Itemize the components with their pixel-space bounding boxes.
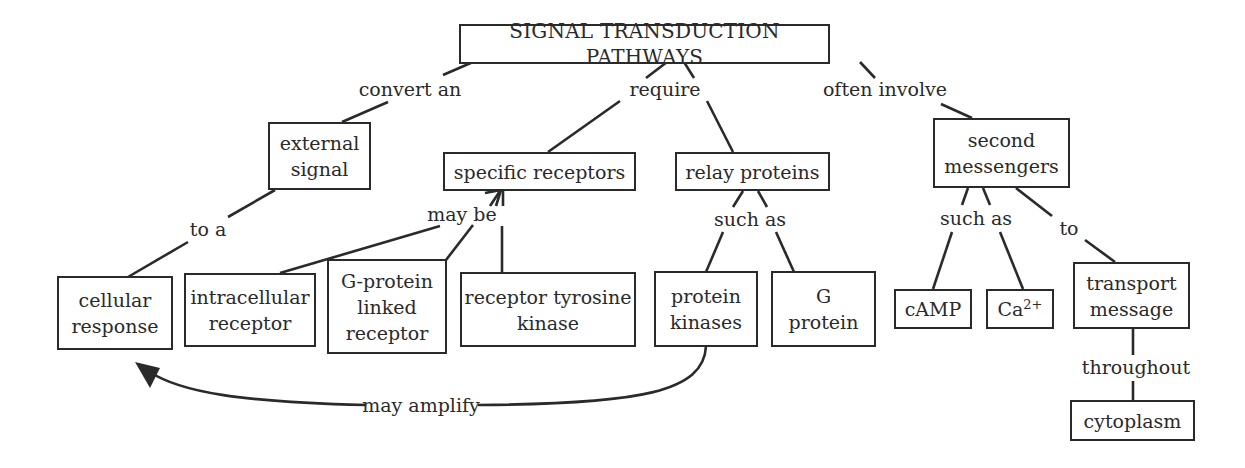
link-label-may-be: may be [427, 203, 497, 225]
node-protein-kinases: protein kinases [654, 271, 758, 347]
node-g-protein-linked-receptor: G-protein linked receptor [327, 259, 447, 354]
node-label: cytoplasm [1084, 408, 1182, 434]
link-label-to-a: to a [190, 218, 226, 240]
link-label-require: require [629, 78, 700, 100]
link-label-often-involve: often involve [823, 78, 947, 100]
node-label: receptor tyrosine kinase [465, 284, 632, 336]
concept-map: SIGNAL TRANSDUCTION PATHWAYS external si… [0, 0, 1245, 468]
node-calcium-ion: Ca2+ [986, 289, 1054, 329]
calcium-symbol: Ca [997, 298, 1023, 320]
node-label: G-protein linked receptor [341, 268, 433, 346]
link-label-such-as-relay: such as [714, 208, 786, 230]
calcium-charge: 2+ [1023, 297, 1042, 312]
node-label: Ca2+ [997, 296, 1042, 322]
node-label: G protein [789, 283, 859, 335]
link-label-may-amplify: may amplify [362, 394, 480, 416]
node-label: transport message [1086, 270, 1176, 322]
node-camp: cAMP [894, 289, 972, 329]
node-signal-transduction-pathways: SIGNAL TRANSDUCTION PATHWAYS [459, 24, 830, 64]
node-intracellular-receptor: intracellular receptor [184, 273, 316, 347]
connector-lines [0, 0, 1245, 468]
node-g-protein: G protein [771, 271, 876, 347]
node-label: cellular response [72, 287, 159, 339]
node-specific-receptors: specific receptors [443, 152, 636, 191]
node-label: cAMP [905, 296, 962, 322]
node-label: external signal [280, 130, 360, 182]
node-label: specific receptors [454, 159, 626, 185]
node-cellular-response: cellular response [57, 276, 173, 350]
link-label-convert-an: convert an [359, 78, 462, 100]
node-relay-proteins: relay proteins [675, 152, 830, 191]
link-label-throughout: throughout [1082, 356, 1190, 378]
node-label: second messengers [944, 127, 1058, 179]
node-second-messengers: second messengers [933, 118, 1070, 188]
link-label-such-as-second: such as [940, 207, 1012, 229]
node-label: intracellular receptor [190, 284, 309, 336]
node-label: relay proteins [685, 159, 819, 185]
node-cytoplasm: cytoplasm [1070, 400, 1195, 441]
node-label: protein kinases [670, 283, 742, 335]
node-external-signal: external signal [268, 122, 371, 190]
node-transport-message: transport message [1073, 262, 1190, 329]
node-label: SIGNAL TRANSDUCTION PATHWAYS [461, 18, 828, 70]
link-label-to: to [1059, 217, 1078, 239]
node-receptor-tyrosine-kinase: receptor tyrosine kinase [460, 272, 636, 347]
